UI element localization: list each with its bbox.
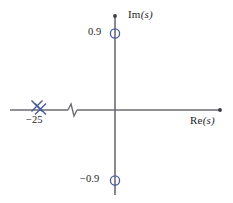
real-axis-label-arg: (s)	[203, 114, 215, 126]
real-axis-label: Re(s)	[190, 114, 215, 126]
tick-label-re-negative: −25	[26, 114, 43, 125]
axis-break-zigzag-icon	[68, 104, 77, 116]
real-axis-label-prefix: Re	[190, 114, 203, 126]
imaginary-axis-label-prefix: Im	[128, 8, 141, 20]
plot-canvas	[0, 0, 233, 203]
real-axis-arrow-icon	[218, 108, 222, 112]
imaginary-axis-label-arg: (s)	[141, 8, 153, 20]
tick-label-im-negative: −0.9	[80, 173, 99, 184]
imaginary-axis-label: Im(s)	[128, 8, 153, 20]
imaginary-axis-arrow-icon	[113, 14, 117, 18]
zero-marker-negative	[110, 176, 119, 185]
pole-marker-double	[32, 101, 47, 115]
tick-label-im-positive: 0.9	[88, 26, 101, 37]
zero-marker-positive	[110, 29, 119, 38]
pole-zero-plot: Im(s) Re(s) 0.9 −0.9 −25	[0, 0, 233, 203]
